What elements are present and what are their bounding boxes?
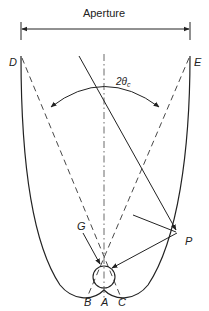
- aperture-dimension: [21, 22, 190, 40]
- label-g: G: [77, 220, 86, 232]
- label-e: E: [194, 56, 202, 68]
- label-d: D: [9, 56, 17, 68]
- label-p: P: [185, 235, 193, 247]
- label-b: B: [84, 296, 91, 308]
- label-c: C: [118, 296, 126, 308]
- cpc-diagram: Aperture D E 2θc G P B A C: [0, 0, 209, 311]
- g-ray: [83, 233, 100, 264]
- reflected-ray: [112, 233, 177, 268]
- label-a: A: [100, 296, 108, 308]
- angle-label: 2θc: [115, 76, 131, 88]
- reflector-curve: [21, 56, 190, 298]
- aperture-label: Aperture: [83, 7, 125, 19]
- acceptance-angle-arc: [51, 87, 159, 108]
